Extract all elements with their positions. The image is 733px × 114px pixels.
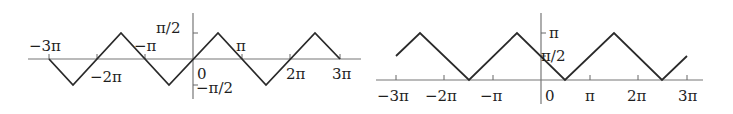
left-label-2pi: 2π [286,65,306,83]
left-label-pi: π [236,37,246,55]
left-label-m-half-pi: −π/2 [196,79,233,97]
right-label-2pi: 2π [627,87,647,105]
left-label-3pi: 3π [332,65,352,83]
right-label-half-pi: π/2 [541,47,565,65]
left-label-half-pi: π/2 [156,19,180,37]
right-label-m3pi: −3π [377,87,409,105]
left-graph: −3π −2π −π 0 π 2π 3π π/2 −π/2 [28,13,361,99]
right-label-3pi: 3π [678,87,698,105]
right-label-mpi: −π [480,87,503,105]
right-label-pi-y: π [549,24,559,42]
right-graph: −3π −2π −π 0 π 2π 3π π π/2 [376,13,703,105]
left-label-mpi: −π [134,37,157,55]
left-label-m2pi: −2π [90,68,122,86]
figure-canvas: −3π −2π −π 0 π 2π 3π π/2 −π/2 −3π −2π −π… [0,0,733,114]
right-label-m2pi: −2π [425,87,457,105]
right-label-zero: 0 [545,87,555,105]
right-label-pi: π [585,87,595,105]
left-label-m3pi: −3π [29,37,61,55]
